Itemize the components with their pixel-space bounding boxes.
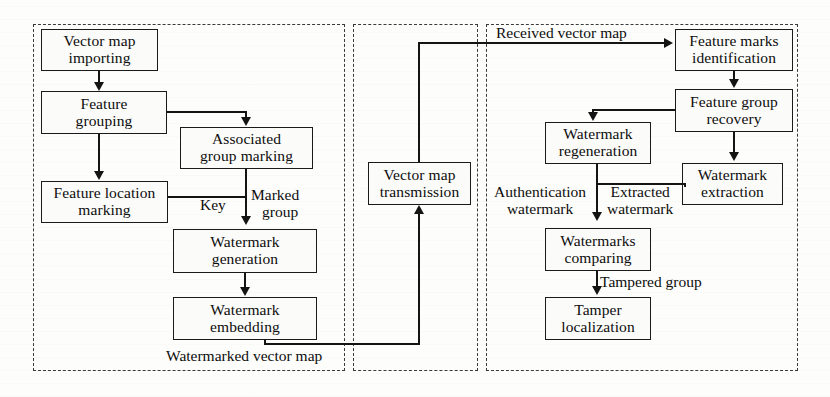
node-line-1: Watermark — [563, 126, 632, 143]
edge-label-tampered-group: Tampered group — [600, 274, 702, 291]
edge-label-watermarked-vector-map: Watermarked vector map — [166, 348, 322, 365]
edge-regeneration-down — [596, 164, 598, 184]
edge-to-watermarks-comparing — [596, 183, 598, 215]
flowchart-canvas: Vector map importing Feature grouping As… — [0, 0, 830, 397]
edge-label-authentication-line-1: Authentication — [494, 183, 586, 200]
arrowhead-generation-to-embedding — [240, 287, 250, 296]
arrowhead-identification-to-recovery — [729, 79, 739, 88]
edge-label-marked-group-line-2: group — [262, 203, 298, 220]
node-watermark-regeneration[interactable]: Watermark regeneration — [545, 122, 651, 164]
arrowhead-recovery-to-regeneration — [588, 112, 598, 121]
node-line-2: transmission — [380, 184, 460, 201]
node-line-1: Feature marks — [689, 33, 779, 50]
node-feature-marks-identification[interactable]: Feature marks identification — [675, 29, 793, 71]
edge-label-authentication-watermark: Authentication watermark — [494, 183, 586, 217]
node-line-2: regeneration — [559, 143, 638, 160]
node-line-2: generation — [212, 251, 278, 268]
edge-grouping-to-location — [98, 134, 100, 172]
edge-label-extracted-watermark: Extracted watermark — [607, 183, 673, 217]
edge-associated-to-generation-v — [245, 169, 247, 219]
node-watermark-extraction[interactable]: Watermark extraction — [682, 163, 783, 205]
arrowhead-importing-to-grouping — [94, 82, 104, 91]
arrowhead-to-watermark-generation — [241, 216, 251, 225]
node-line-1: Feature — [80, 96, 127, 113]
arrowhead-to-watermarks-comparing — [592, 212, 602, 221]
node-associated-group-marking[interactable]: Associated group marking — [180, 127, 313, 169]
node-line-2: localization — [561, 319, 635, 336]
edge-transmission-out-v — [418, 42, 420, 162]
edge-extraction-down — [684, 183, 686, 187]
node-line-2: embedding — [210, 319, 280, 336]
node-line-1: Vector map — [383, 167, 455, 184]
node-line-2: grouping — [76, 113, 133, 130]
arrowhead-grouping-to-associated — [241, 117, 251, 126]
node-line-1: Watermark — [698, 167, 767, 184]
node-line-1: Watermark — [210, 302, 279, 319]
node-line-1: Feature group — [690, 94, 778, 111]
node-feature-group-recovery[interactable]: Feature group recovery — [675, 89, 793, 132]
edge-label-marked-group-line-1: Marked — [251, 186, 299, 203]
node-line-2: importing — [68, 50, 130, 67]
edge-grouping-to-associated-h — [167, 111, 247, 113]
node-watermarks-comparing[interactable]: Watermarks comparing — [545, 228, 651, 271]
arrowhead-recovery-to-extraction — [729, 152, 739, 161]
arrowhead-grouping-to-location — [94, 171, 104, 180]
node-line-1: Tamper — [574, 302, 622, 319]
node-line-1: Associated — [212, 131, 281, 148]
node-line-2: comparing — [564, 250, 631, 267]
edge-transmission-up — [418, 214, 420, 344]
node-line-2: marking — [78, 202, 130, 219]
edge-recovery-to-extraction — [733, 132, 735, 153]
edge-embedding-to-transmission-h — [264, 343, 420, 345]
node-line-1: Watermarks — [560, 233, 636, 250]
edge-label-extracted-line-1: Extracted — [610, 183, 669, 200]
arrowhead-to-vector-map-transmission — [414, 205, 424, 214]
node-line-2: group marking — [200, 148, 293, 165]
edge-received-vector-map-h — [418, 42, 666, 44]
node-watermark-embedding[interactable]: Watermark embedding — [173, 297, 317, 340]
node-feature-location-marking[interactable]: Feature location marking — [41, 181, 168, 223]
node-watermark-generation[interactable]: Watermark generation — [173, 229, 317, 273]
node-feature-grouping[interactable]: Feature grouping — [41, 91, 167, 134]
node-vector-map-transmission[interactable]: Vector map transmission — [368, 162, 471, 205]
node-tamper-localization[interactable]: Tamper localization — [545, 297, 651, 340]
edge-label-extracted-line-2: watermark — [607, 200, 673, 217]
node-line-2: identification — [692, 50, 776, 67]
node-line-2: extraction — [701, 184, 764, 201]
node-vector-map-importing[interactable]: Vector map importing — [41, 29, 158, 71]
edge-recovery-to-regeneration-h — [592, 109, 676, 111]
edge-generation-to-embedding — [244, 273, 246, 288]
node-line-1: Feature location — [54, 185, 156, 202]
edge-label-key: Key — [200, 197, 226, 214]
edge-label-authentication-line-2: watermark — [507, 200, 573, 217]
node-line-1: Vector map — [63, 33, 135, 50]
arrowhead-received-vector-map — [664, 38, 673, 48]
node-line-1: Watermark — [210, 234, 279, 251]
edge-label-marked-group: Marked group — [251, 186, 299, 220]
edge-label-received-vector-map: Received vector map — [496, 25, 627, 42]
node-line-2: recovery — [706, 111, 761, 128]
